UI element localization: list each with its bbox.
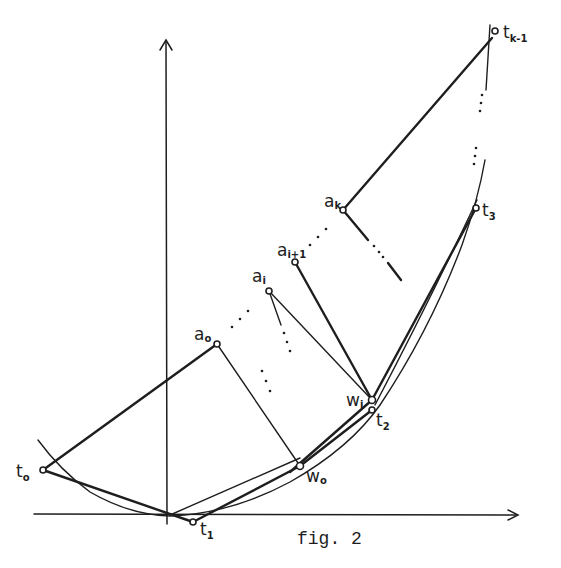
x-axis bbox=[34, 514, 516, 515]
point-t1 bbox=[190, 519, 196, 525]
points bbox=[40, 28, 498, 525]
segment-t0-a0 bbox=[43, 344, 217, 470]
figure-caption: fig. 2 bbox=[297, 529, 362, 549]
y-axis bbox=[166, 42, 167, 524]
segment-t1-w0 bbox=[193, 466, 300, 522]
label-t0: to bbox=[16, 461, 30, 483]
segment-a0-w0 bbox=[217, 344, 300, 466]
point-t2 bbox=[369, 407, 375, 413]
segment-w0-t2 bbox=[300, 410, 372, 466]
label-t2: t2 bbox=[376, 410, 390, 432]
axes bbox=[34, 40, 518, 524]
segment-w0-wi bbox=[290, 400, 372, 472]
segment-ai-partial bbox=[269, 291, 281, 325]
point-a0 bbox=[214, 341, 220, 347]
point-tk1 bbox=[492, 28, 498, 34]
segment-ak-tk1 bbox=[343, 38, 492, 210]
point-w0 bbox=[297, 463, 304, 470]
point-t0 bbox=[40, 467, 46, 473]
point-ai bbox=[266, 288, 272, 294]
label-wi: wi bbox=[346, 390, 363, 410]
parabola-curve-upper bbox=[486, 25, 490, 90]
label-w0: wo bbox=[306, 466, 327, 486]
figure-canvas: to t1 t2 t3 tk-1 ao ai ai+1 ak wo wi fig… bbox=[0, 0, 561, 568]
labels: to t1 t2 t3 tk-1 ao ai ai+1 ak wo wi bbox=[16, 22, 527, 541]
label-t1: t1 bbox=[200, 519, 214, 541]
label-tk1: tk-1 bbox=[503, 22, 527, 44]
label-ai: ai bbox=[252, 266, 266, 286]
segment-ak-tail bbox=[388, 263, 401, 280]
segment-wi-t3 bbox=[372, 208, 476, 400]
ellipsis-dots bbox=[231, 94, 484, 393]
label-ai1: ai+1 bbox=[277, 240, 306, 260]
label-t3: t3 bbox=[482, 200, 496, 222]
point-t3 bbox=[473, 205, 479, 211]
segment-ak-partial bbox=[343, 210, 368, 240]
tangent-polygon bbox=[43, 208, 476, 522]
label-a0: ao bbox=[194, 324, 211, 344]
parabola-curve bbox=[38, 160, 485, 516]
point-wi bbox=[369, 397, 376, 404]
label-ak: ak bbox=[324, 191, 341, 211]
